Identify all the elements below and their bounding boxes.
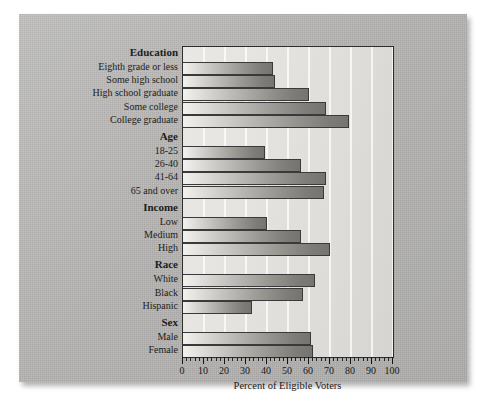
tick-34 xyxy=(253,357,254,361)
tick-44 xyxy=(274,357,275,361)
bar-hispanic xyxy=(182,301,252,314)
tick-36 xyxy=(258,357,259,361)
tick-56 xyxy=(300,357,301,361)
tick-18 xyxy=(220,357,221,361)
category-label-hispanic: Hispanic xyxy=(142,300,178,312)
tick-30 xyxy=(245,357,246,364)
tick-74 xyxy=(337,357,338,361)
tick-84 xyxy=(358,357,359,361)
category-label-some-college: Some college xyxy=(124,101,178,113)
x-axis-ticks xyxy=(182,357,393,365)
bar-low xyxy=(182,217,267,230)
x-tick-label-70: 70 xyxy=(324,365,334,376)
tick-98 xyxy=(388,357,389,361)
bar-some-college xyxy=(182,102,326,115)
bar-medium xyxy=(182,230,301,243)
category-label-male: Male xyxy=(157,331,178,343)
tick-96 xyxy=(384,357,385,361)
x-tick-label-30: 30 xyxy=(240,365,250,376)
category-label-high: High xyxy=(158,242,178,254)
group-header-sex: Sex xyxy=(162,316,179,328)
x-tick-label-90: 90 xyxy=(366,365,376,376)
chart-figure: EducationEighth grade or lessSome high s… xyxy=(0,0,487,404)
group-header-race: Race xyxy=(155,258,178,270)
tick-50 xyxy=(287,357,288,364)
category-label-female: Female xyxy=(149,344,178,356)
tick-76 xyxy=(342,357,343,361)
category-label-medium: Medium xyxy=(144,229,178,241)
tick-54 xyxy=(295,357,296,361)
gridline-70 xyxy=(329,47,331,357)
x-tick-label-20: 20 xyxy=(219,365,229,376)
tick-88 xyxy=(367,357,368,361)
tick-42 xyxy=(270,357,271,361)
tick-10 xyxy=(203,357,204,364)
bar-18-25 xyxy=(182,146,265,159)
tick-20 xyxy=(224,357,225,364)
x-tick-label-10: 10 xyxy=(198,365,208,376)
category-label-low: Low xyxy=(160,216,178,228)
x-tick-label-80: 80 xyxy=(345,365,355,376)
plot-area xyxy=(182,46,394,358)
gridline-90 xyxy=(371,47,373,357)
category-label-41-64: 41-64 xyxy=(155,171,178,183)
x-tick-label-100: 100 xyxy=(385,365,400,376)
tick-80 xyxy=(350,357,351,364)
tick-12 xyxy=(207,357,208,361)
tick-100 xyxy=(392,357,393,364)
bar-male xyxy=(182,332,311,345)
bar-high-school-graduate xyxy=(182,88,309,101)
tick-8 xyxy=(199,357,200,361)
category-label-26-40: 26-40 xyxy=(155,158,178,170)
tick-22 xyxy=(228,357,229,361)
bar-eighth-grade-or-less xyxy=(182,62,273,75)
tick-60 xyxy=(308,357,309,364)
bar-black xyxy=(182,288,303,301)
category-label-high-school-graduate: High school graduate xyxy=(92,87,178,99)
tick-38 xyxy=(262,357,263,361)
tick-40 xyxy=(266,357,267,364)
tick-94 xyxy=(379,357,380,361)
x-tick-label-40: 40 xyxy=(261,365,271,376)
tick-26 xyxy=(237,357,238,361)
tick-70 xyxy=(329,357,330,364)
tick-2 xyxy=(186,357,187,361)
category-axis-labels: EducationEighth grade or lessSome high s… xyxy=(19,14,178,404)
bar-some-high-school xyxy=(182,75,275,88)
bar-college-graduate xyxy=(182,115,349,128)
chart-panel: EducationEighth grade or lessSome high s… xyxy=(19,14,467,382)
category-label-eighth-grade-or-less: Eighth grade or less xyxy=(98,61,178,73)
tick-0 xyxy=(182,357,183,364)
x-axis-title: Percent of Eligible Voters xyxy=(182,380,393,391)
tick-4 xyxy=(190,357,191,361)
x-tick-label-60: 60 xyxy=(303,365,313,376)
tick-14 xyxy=(211,357,212,361)
tick-64 xyxy=(316,357,317,361)
bar-26-40 xyxy=(182,159,301,172)
gridline-80 xyxy=(350,47,352,357)
category-label-65-and-over: 65 and over xyxy=(131,185,178,197)
bar-high xyxy=(182,243,330,256)
tick-92 xyxy=(375,357,376,361)
tick-72 xyxy=(333,357,334,361)
bar-41-64 xyxy=(182,172,326,185)
category-label-college-graduate: College graduate xyxy=(110,114,178,126)
tick-78 xyxy=(346,357,347,361)
group-header-age: Age xyxy=(160,130,178,142)
category-label-18-25: 18-25 xyxy=(155,145,178,157)
tick-62 xyxy=(312,357,313,361)
category-label-white: White xyxy=(154,273,178,285)
bar-white xyxy=(182,274,315,287)
tick-58 xyxy=(304,357,305,361)
x-tick-label-0: 0 xyxy=(180,365,185,376)
gridline-100 xyxy=(392,47,394,357)
tick-82 xyxy=(354,357,355,361)
group-header-education: Education xyxy=(130,46,178,58)
tick-24 xyxy=(232,357,233,361)
tick-46 xyxy=(279,357,280,361)
tick-32 xyxy=(249,357,250,361)
category-label-black: Black xyxy=(155,287,178,299)
tick-86 xyxy=(363,357,364,361)
bar-65-and-over xyxy=(182,186,324,199)
tick-66 xyxy=(321,357,322,361)
